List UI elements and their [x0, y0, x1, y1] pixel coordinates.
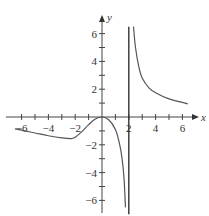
x-axis-label: x — [200, 111, 206, 123]
x-tick-label: −6 — [16, 122, 28, 134]
y-tick-label: −2 — [85, 139, 97, 151]
x-tick-label: −4 — [43, 122, 55, 134]
y-tick-label: 4 — [92, 55, 98, 67]
x-tick-label: −2 — [69, 122, 81, 134]
y-axis-label: y — [106, 11, 112, 23]
y-tick-label: 6 — [92, 28, 98, 40]
x-tick-label: 6 — [180, 122, 186, 134]
x-axis-arrow-icon — [192, 114, 199, 120]
curve-right-branch — [133, 27, 187, 104]
x-tick-label: 4 — [153, 122, 159, 134]
y-axis-arrow-icon — [99, 15, 105, 22]
y-tick-label: −4 — [85, 167, 97, 179]
function-graph: −6−4−2246642−2−4−6 x y — [0, 0, 209, 216]
graph-canvas: −6−4−2246642−2−4−6 x y — [0, 0, 209, 216]
y-tick-label: 2 — [92, 83, 98, 95]
y-tick-label: −6 — [85, 194, 97, 206]
